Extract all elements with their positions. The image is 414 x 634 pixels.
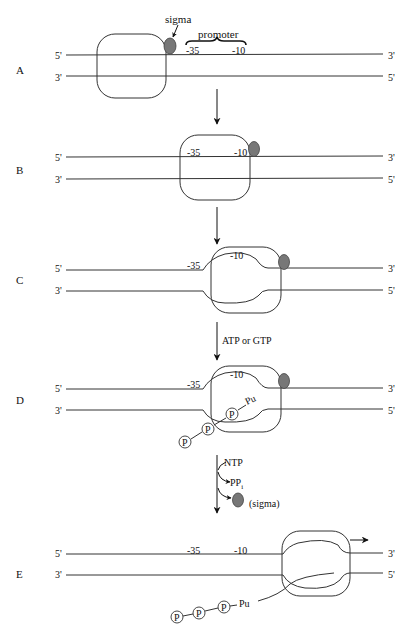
ppi-label: PPi — [230, 477, 243, 491]
phosphate-bond — [205, 608, 218, 611]
panel-a: A 5' 3' 3' 5' sigma promoter -35 -10 — [16, 13, 395, 98]
nucleotide-triphosphate: P P P Pu — [179, 392, 257, 448]
sigma-release-arrow — [218, 488, 231, 498]
phosphate-bond — [238, 405, 246, 410]
strand-end-label: 3' — [55, 285, 62, 296]
minus35-label: -35 — [187, 260, 200, 271]
panel-label: A — [16, 64, 24, 76]
sigma-pointer-arrow — [173, 25, 178, 37]
dna-top-strand-open — [66, 540, 383, 554]
rna-polymerase — [97, 34, 166, 98]
dna-bottom-strand-open — [66, 573, 383, 588]
panel-label: E — [16, 568, 23, 580]
ntp-label: NTP — [224, 457, 243, 468]
sigma-label: sigma — [165, 13, 191, 25]
transcription-initiation-diagram: A 5' 3' 3' 5' sigma promoter -35 -10 B 5… — [0, 0, 414, 634]
rna-polymerase — [180, 135, 250, 200]
panel-label: D — [16, 394, 24, 406]
strand-end-label: 3' — [388, 50, 395, 61]
minus10-label: -10 — [234, 545, 247, 556]
panel-label: C — [16, 274, 23, 286]
sigma-factor — [249, 142, 260, 157]
strand-end-label: 3' — [55, 72, 62, 83]
ppi-text: PP — [230, 477, 242, 488]
minus10-label: -10 — [230, 250, 243, 261]
phosphate-label: P — [182, 437, 188, 448]
panel-label: B — [16, 164, 23, 176]
strand-end-label: 5' — [55, 50, 62, 61]
strand-end-label: 5' — [388, 569, 395, 580]
sigma-factor — [279, 255, 290, 270]
strand-end-label: 5' — [388, 72, 395, 83]
sigma-factor — [279, 374, 290, 389]
minus35-label: -35 — [186, 45, 199, 56]
strand-end-label: 5' — [55, 263, 62, 274]
panel-e: E 5' 3' 3' 5' -35 -10 P P P Pu — [16, 531, 395, 623]
phosphate-label: P — [221, 602, 227, 613]
strand-end-label: 5' — [388, 285, 395, 296]
minus10-label: -10 — [232, 45, 245, 56]
minus35-label: -35 — [187, 545, 200, 556]
phosphate-label: P — [229, 409, 235, 420]
dna-top-strand — [66, 54, 383, 55]
dna-bottom-strand-open — [66, 290, 383, 303]
strand-end-label: 3' — [55, 569, 62, 580]
minus10-label: -10 — [234, 147, 247, 158]
strand-end-label: 5' — [55, 383, 62, 394]
released-sigma-factor — [233, 493, 244, 507]
transition-label-atp-gtp: ATP or GTP — [222, 335, 272, 346]
minus35-label: -35 — [187, 147, 200, 158]
phosphate-label: P — [196, 608, 202, 619]
nascent-rna — [258, 573, 334, 601]
strand-end-label: 3' — [55, 405, 62, 416]
strand-end-label: 3' — [388, 263, 395, 274]
purine-label: Pu — [243, 392, 257, 406]
dna-top-strand — [66, 156, 383, 157]
phosphate-label: P — [174, 612, 180, 623]
sigma-factor — [164, 38, 176, 54]
purine-label: Pu — [239, 598, 250, 609]
dna-bottom-strand-open — [66, 409, 383, 422]
phosphate-label: P — [205, 424, 211, 435]
strand-end-label: 5' — [55, 152, 62, 163]
phosphate-bond — [191, 432, 202, 439]
released-sigma-label: (sigma) — [249, 498, 280, 510]
panel-b: B 5' 3' 3' 5' -35 -10 — [16, 135, 395, 200]
minus35-label: -35 — [187, 379, 200, 390]
panel-d: D 5' 3' 3' 5' -35 -10 P P P Pu — [16, 366, 395, 448]
strand-end-label: 5' — [388, 405, 395, 416]
strand-end-label: 5' — [388, 174, 395, 185]
strand-end-label: 3' — [388, 383, 395, 394]
dna-top-strand-open — [66, 372, 383, 389]
transition-d-e: NTP PPi (sigma) — [217, 455, 280, 513]
panel-c: C 5' 3' 3' 5' -35 -10 — [16, 247, 395, 313]
dna-bottom-strand — [66, 178, 383, 179]
phosphate-bond — [230, 605, 237, 606]
strand-end-label: 3' — [388, 548, 395, 559]
ppi-subscript: i — [241, 483, 243, 491]
dna-top-strand-open — [66, 253, 383, 270]
strand-end-label: 3' — [388, 152, 395, 163]
phosphate-bond — [183, 614, 193, 616]
rna-triphosphate-end: P P P Pu — [171, 598, 250, 623]
ppi-out-arrow — [218, 472, 230, 482]
strand-end-label: 3' — [55, 174, 62, 185]
strand-end-label: 5' — [55, 548, 62, 559]
minus10-label: -10 — [230, 369, 243, 380]
